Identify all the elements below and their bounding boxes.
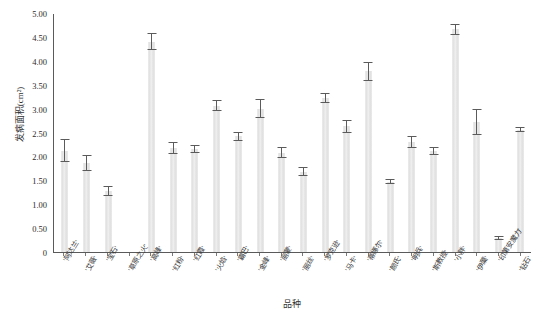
error-bar-cap-top: [234, 132, 243, 133]
x-label-slot: '钻石': [509, 257, 531, 297]
bar-slot: [97, 14, 119, 252]
bar[interactable]: [495, 238, 502, 252]
bar-slot: [314, 14, 336, 252]
error-bar-cap-top: [190, 145, 199, 146]
bar[interactable]: [235, 136, 242, 252]
error-bar-cap-top: [82, 155, 91, 156]
error-bar: [104, 186, 113, 196]
x-label-slot: '艾薇': [75, 257, 97, 297]
error-bar: [386, 179, 395, 184]
y-axis-tick-label: 4.00: [32, 58, 47, 67]
error-bar-cap-top: [386, 179, 395, 180]
error-bar-cap-top: [321, 93, 330, 94]
y-axis-tick-label: 1.50: [32, 177, 47, 186]
error-bar-cap-bottom: [321, 102, 330, 103]
error-bar-cap-top: [299, 167, 308, 168]
error-bar-cap-top: [342, 120, 351, 121]
bar-slot: [358, 14, 380, 252]
y-axis-tick-label: 3.00: [32, 105, 47, 114]
bar-slot: [509, 14, 531, 252]
error-bar-cap-top: [212, 100, 221, 101]
error-bar-cap-bottom: [277, 157, 286, 158]
error-bar: [234, 132, 243, 142]
error-bar-cap-bottom: [256, 117, 265, 118]
x-label-slot: '霸巴': [227, 257, 249, 297]
error-bar: [516, 127, 525, 132]
bar[interactable]: [300, 172, 307, 252]
error-bar-cap-bottom: [429, 154, 438, 155]
bar[interactable]: [387, 182, 394, 252]
bar-slot: [488, 14, 510, 252]
x-label-slot: '丽蒙': [270, 257, 292, 297]
bar[interactable]: [61, 151, 68, 252]
error-bar-cap-top: [429, 147, 438, 148]
bar[interactable]: [170, 148, 177, 252]
error-bar-cap-top: [451, 24, 460, 25]
error-bar-cap-bottom: [516, 131, 525, 132]
error-bar-cap-bottom: [104, 195, 113, 196]
bar[interactable]: [148, 42, 155, 252]
error-bar-cap-top: [516, 127, 525, 128]
bar[interactable]: [105, 191, 112, 252]
y-axis-tick-label: 2.50: [32, 129, 47, 138]
bar-slot: [249, 14, 271, 252]
bar[interactable]: [452, 29, 459, 252]
bar[interactable]: [213, 106, 220, 252]
x-label-slot: '高峰': [140, 257, 162, 297]
x-axis-tick-mark: [520, 253, 521, 256]
plot-area: [53, 14, 531, 253]
x-axis-tick-mark: [259, 253, 260, 256]
bar-slot: [423, 14, 445, 252]
error-bar: [190, 145, 199, 153]
error-bar-cap-bottom: [299, 175, 308, 176]
x-axis-tick-mark: [216, 253, 217, 256]
bar[interactable]: [257, 109, 264, 252]
bar-slot: [271, 14, 293, 252]
error-bar-line: [64, 139, 65, 162]
x-axis-category-label[interactable]: '钻石': [518, 255, 534, 273]
error-bar: [342, 120, 351, 132]
x-label-slot: '罗克逊': [314, 257, 336, 297]
x-label-slot: '红霞': [183, 257, 205, 297]
bar[interactable]: [365, 71, 372, 252]
x-label-slot: '马卡': [336, 257, 358, 297]
x-label-slot: '草原之火': [118, 257, 140, 297]
bar[interactable]: [83, 163, 90, 252]
x-label-slot: '颜氏': [379, 257, 401, 297]
bar-slot: [401, 14, 423, 252]
error-bar-cap-bottom: [147, 49, 156, 50]
error-bar: [212, 100, 221, 111]
error-bar-cap-bottom: [82, 170, 91, 171]
bar[interactable]: [430, 151, 437, 252]
x-label-slot: '红粉': [162, 257, 184, 297]
x-axis-title: 品种: [53, 297, 531, 310]
error-bar-cap-bottom: [60, 161, 69, 162]
x-label-slot: '阿达兰': [53, 257, 75, 297]
error-bar-cap-bottom: [386, 183, 395, 184]
bar[interactable]: [343, 126, 350, 252]
bar[interactable]: [278, 153, 285, 252]
y-axis-tick-label: 2.00: [32, 153, 47, 162]
x-axis-tick-mark: [433, 253, 434, 256]
bar[interactable]: [322, 98, 329, 252]
error-bar-cap-bottom: [212, 110, 221, 111]
error-bar-cap-top: [364, 62, 373, 63]
error-bar-cap-bottom: [472, 134, 481, 135]
x-axis-tick-mark: [129, 253, 130, 256]
bar-slot: [184, 14, 206, 252]
error-bar-cap-bottom: [364, 80, 373, 81]
x-label-slot: '印第安魔力': [488, 257, 510, 297]
x-axis-tick-mark: [85, 253, 86, 256]
bar[interactable]: [191, 149, 198, 252]
bar-slot: [119, 14, 141, 252]
y-axis-tick-label: 1.00: [32, 201, 47, 210]
bar[interactable]: [408, 142, 415, 252]
bar[interactable]: [473, 122, 480, 252]
error-bar: [256, 99, 265, 118]
error-bar-cap-bottom: [342, 132, 351, 133]
x-label-slot: '金峰': [249, 257, 271, 297]
bar-slot: [336, 14, 358, 252]
error-bar-cap-bottom: [407, 147, 416, 148]
x-label-slot: '小胖': [444, 257, 466, 297]
error-bar-cap-top: [256, 99, 265, 100]
